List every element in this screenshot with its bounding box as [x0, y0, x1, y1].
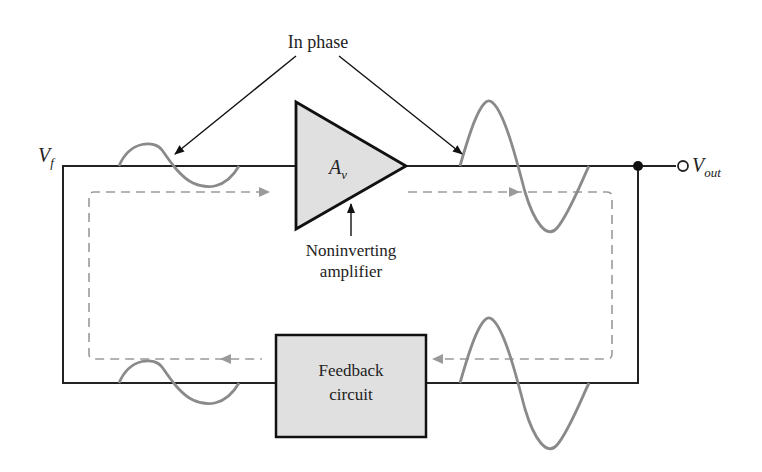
- input-feedback-wire: [63, 166, 296, 383]
- positive-feedback-diagram: Av Feedback circuit In phase Noninvertin…: [0, 0, 762, 472]
- feedback-label-line2: circuit: [329, 385, 373, 404]
- junction-dot: [633, 161, 643, 171]
- amplifier-caption-line1: Noninverting: [306, 241, 397, 260]
- vf-label: Vf: [38, 144, 56, 170]
- amplifier-caption-line2: amplifier: [320, 262, 383, 281]
- feedback-label-line1: Feedback: [318, 361, 384, 380]
- in-phase-arrow-left: [175, 56, 296, 154]
- output-terminal-icon[interactable]: [678, 161, 688, 171]
- feedback-return-wire: [426, 166, 638, 383]
- vout-label: Vout: [692, 154, 721, 180]
- in-phase-label: In phase: [288, 32, 348, 52]
